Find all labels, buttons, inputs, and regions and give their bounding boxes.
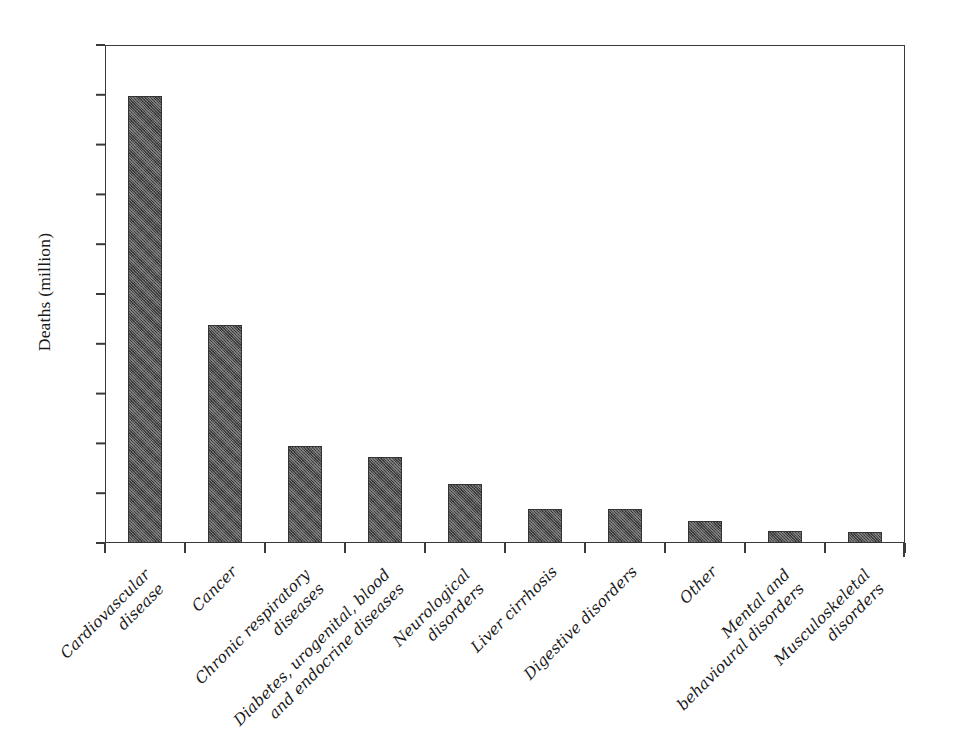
y-tick-mark <box>96 243 105 245</box>
bar <box>528 509 563 543</box>
y-axis-label: Deaths (million) <box>34 192 55 392</box>
bar <box>368 457 403 543</box>
x-axis-tick <box>904 543 906 553</box>
bar <box>768 531 803 543</box>
x-axis-tick <box>824 543 826 553</box>
bar <box>448 484 483 543</box>
x-axis-tick <box>584 543 586 553</box>
y-tick-mark <box>96 393 105 395</box>
x-axis-tick <box>664 543 666 553</box>
bar <box>128 96 163 543</box>
x-axis-tick <box>344 543 346 553</box>
y-tick-mark <box>96 293 105 295</box>
y-tick-mark <box>96 44 105 46</box>
x-axis-tick <box>424 543 426 553</box>
bar <box>688 521 723 543</box>
bars-layer <box>105 45 905 543</box>
y-tick-mark <box>96 194 105 196</box>
y-tick-mark <box>96 443 105 445</box>
x-axis-tick <box>104 543 106 553</box>
bar <box>608 509 643 543</box>
x-axis-tick <box>264 543 266 553</box>
x-axis-tick <box>184 543 186 553</box>
x-axis-tick <box>504 543 506 553</box>
bar-chart-figure: Deaths (million) 20181614121086420 Cardi… <box>0 0 953 750</box>
bar <box>288 446 323 543</box>
y-tick-mark <box>96 94 105 96</box>
bar <box>848 532 883 543</box>
y-tick-mark <box>96 144 105 146</box>
x-axis-tick <box>744 543 746 553</box>
y-tick-mark <box>96 343 105 345</box>
y-tick-mark <box>96 492 105 494</box>
bar <box>208 325 243 543</box>
